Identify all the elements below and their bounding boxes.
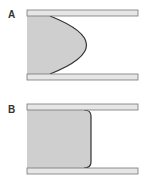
plug-flow-diagram <box>0 94 148 188</box>
parabolic-flow-diagram <box>0 0 148 94</box>
bottom-plate <box>27 74 138 80</box>
plug-fluid-region <box>27 110 91 168</box>
top-plate <box>27 10 138 16</box>
bottom-plate <box>27 168 138 174</box>
panel-b: B <box>0 94 148 188</box>
parabolic-fluid-region <box>27 16 87 74</box>
panel-a: A <box>0 0 148 94</box>
top-plate <box>27 104 138 110</box>
